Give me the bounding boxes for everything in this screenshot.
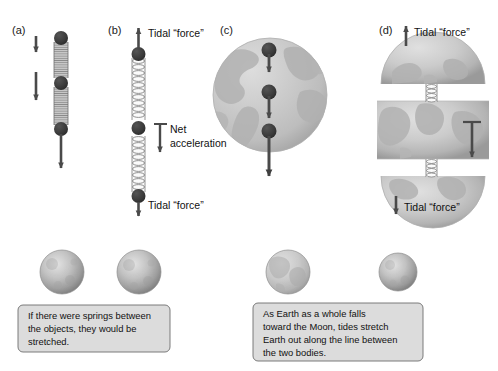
panel-b-label: (b) [108, 24, 121, 36]
caption-earth-tides: As Earth as a whole falls toward the Moo… [253, 303, 423, 361]
panel-d-spring-upper [426, 84, 437, 102]
caption-springs-stretched: If there were springs between the object… [18, 305, 170, 352]
panel-b-spring-upper [132, 58, 145, 120]
panel-a-mass-top [54, 31, 68, 45]
caption-right-line-1: As Earth as a whole falls [263, 308, 366, 319]
tidal-force-diagram: (a) (b) [0, 0, 498, 371]
panel-a-spring-upper [54, 42, 68, 78]
caption-right-line-3: Earth out along the line between [263, 334, 397, 345]
panel-b-mass-middle [132, 121, 146, 135]
panel-b-tidal-force-bottom-label: Tidal “force” [148, 199, 204, 211]
panel-d-tidal-force-bottom-label: Tidal “force” [404, 201, 460, 213]
caption-right-line-2: toward the Moon, tides stretch [263, 321, 389, 332]
panel-b-spring-lower [132, 136, 145, 192]
panel-a-spring-lower [54, 87, 68, 125]
panel-b-mass-top [132, 47, 146, 61]
panel-a-mass-middle [54, 76, 68, 90]
caption-left-line-2: the objects, they would be [28, 323, 136, 334]
panel-d-spring-lower [426, 159, 437, 177]
panel-b-net-acceleration-label-line2: acceleration [170, 137, 227, 149]
panel-a-label: (a) [12, 24, 25, 36]
panel-a-mass-bottom [54, 122, 68, 136]
panel-d-tidal-force-top-label: Tidal “force” [414, 26, 470, 38]
caption-left-line-3: stretched. [28, 336, 69, 347]
panel-d: (d) [377, 24, 489, 228]
panel-b-tidal-force-top-label: Tidal “force” [148, 27, 204, 39]
panel-b-net-acceleration-label-line1: Net [170, 123, 186, 135]
panel-b-mass-bottom [132, 189, 146, 203]
caption-left-line-1: If there were springs between [28, 310, 151, 321]
panel-c-label: (c) [220, 24, 233, 36]
panel-d-label: (d) [379, 24, 392, 36]
caption-right-line-4: the two bodies. [263, 347, 326, 358]
